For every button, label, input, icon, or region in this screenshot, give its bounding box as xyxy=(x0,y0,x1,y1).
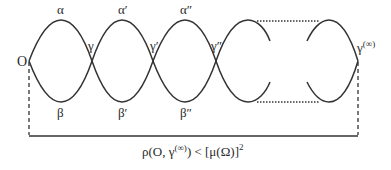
arc-alpha-double-prime xyxy=(153,20,216,61)
label-gamma-prime: γ′ xyxy=(149,38,159,53)
label-beta: β xyxy=(57,105,64,120)
arc-beta xyxy=(29,61,92,102)
arc-4-top xyxy=(216,20,270,61)
arc-alpha xyxy=(29,20,92,61)
arc-alpha-prime xyxy=(92,20,153,61)
arc-last-top xyxy=(307,20,358,61)
label-beta-prime: β′ xyxy=(118,105,128,120)
label-origin: O xyxy=(17,54,27,69)
label-alpha-double-prime: α″ xyxy=(180,2,192,17)
chain-of-lenses-diagram: O α α′ α″ β β′ β″ γ γ′ γ″ γ(∞) ρ(O, γ(∞)… xyxy=(0,0,391,170)
label-alpha-prime: α′ xyxy=(118,2,128,17)
arc-beta-prime xyxy=(92,61,153,102)
label-gamma-double-prime: γ″ xyxy=(210,38,222,53)
label-gamma: γ xyxy=(87,38,94,53)
label-alpha: α xyxy=(57,2,64,17)
label-beta-double-prime: β″ xyxy=(180,105,192,120)
arc-beta-double-prime xyxy=(153,61,216,102)
arc-last-bottom xyxy=(307,61,358,102)
arc-4-bottom xyxy=(216,61,270,102)
formula: ρ(O, γ(∞)) < [μ(Ω)]2 xyxy=(142,142,243,159)
label-gamma-infinity: γ(∞) xyxy=(356,39,375,55)
